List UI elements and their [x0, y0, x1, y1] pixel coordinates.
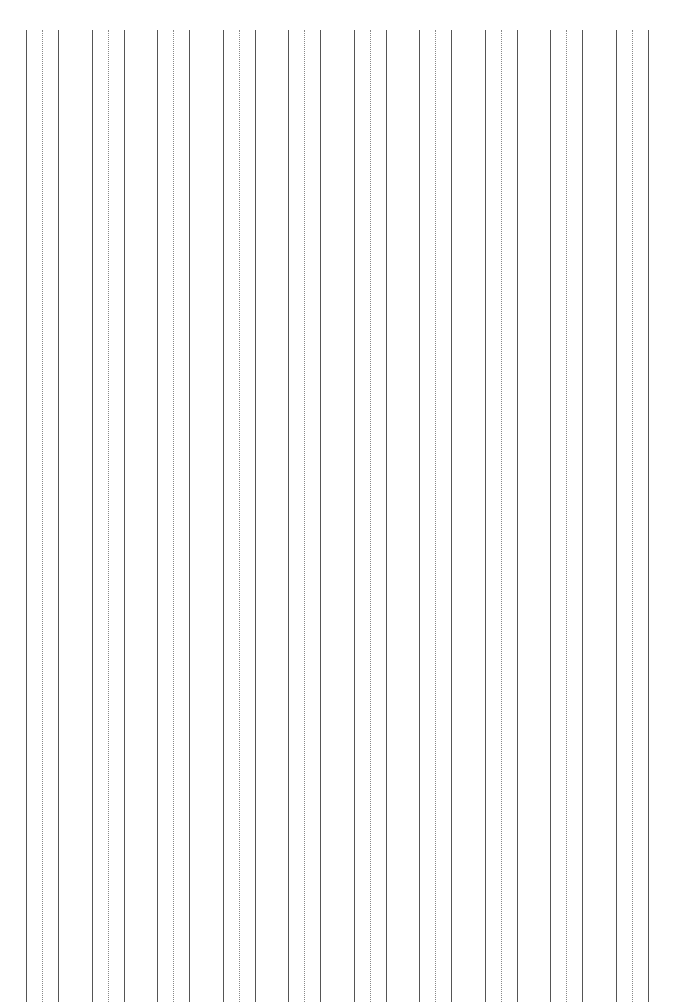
guide-line-solid	[419, 30, 420, 1002]
midline-dotted	[501, 30, 502, 1002]
guide-line-solid	[223, 30, 224, 1002]
midline-dotted	[239, 30, 240, 1002]
midline-dotted	[566, 30, 567, 1002]
midline-dotted	[173, 30, 174, 1002]
guide-line-solid	[255, 30, 256, 1002]
guide-line-solid	[58, 30, 59, 1002]
practice-sheet	[0, 0, 674, 1002]
guide-line-solid	[517, 30, 518, 1002]
guide-line-solid	[451, 30, 452, 1002]
guide-line-solid	[582, 30, 583, 1002]
guide-line-solid	[157, 30, 158, 1002]
guide-line-solid	[189, 30, 190, 1002]
guide-line-solid	[648, 30, 649, 1002]
guide-line-solid	[288, 30, 289, 1002]
guide-line-solid	[550, 30, 551, 1002]
guide-line-solid	[124, 30, 125, 1002]
guide-line-solid	[26, 30, 27, 1002]
midline-dotted	[632, 30, 633, 1002]
guide-line-solid	[485, 30, 486, 1002]
guide-line-solid	[92, 30, 93, 1002]
guide-line-solid	[320, 30, 321, 1002]
midline-dotted	[370, 30, 371, 1002]
guide-line-solid	[616, 30, 617, 1002]
midline-dotted	[42, 30, 43, 1002]
guide-line-solid	[386, 30, 387, 1002]
midline-dotted	[435, 30, 436, 1002]
guide-line-solid	[354, 30, 355, 1002]
midline-dotted	[108, 30, 109, 1002]
midline-dotted	[304, 30, 305, 1002]
